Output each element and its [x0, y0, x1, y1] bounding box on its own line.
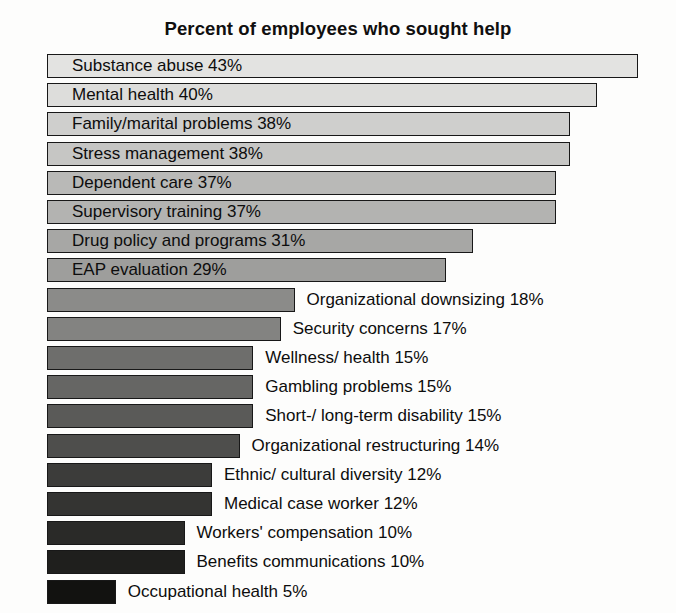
bar-label: Mental health 40% [72, 83, 213, 107]
bar-row: Organizational downsizing 18% [0, 286, 676, 316]
bar-row: Ethnic/ cultural diversity 12% [0, 461, 676, 491]
bar-row: Workers' compensation 10% [0, 519, 676, 549]
bar-label: Security concerns 17% [293, 317, 467, 341]
bar-label: EAP evaluation 29% [72, 258, 227, 282]
bar-rect [47, 550, 185, 574]
bar-label: Drug policy and programs 31% [72, 229, 305, 253]
bar-rect [47, 580, 116, 604]
bar-row: Medical case worker 12% [0, 490, 676, 520]
bar-row: Organizational restructuring 14% [0, 432, 676, 462]
bar-label: Dependent care 37% [72, 171, 232, 195]
bar-row: EAP evaluation 29% [0, 256, 676, 286]
bar-label: Short-/ long-term disability 15% [265, 404, 501, 428]
bar-row: Stress management 38% [0, 140, 676, 170]
plot-area: Substance abuse 43%Mental health 40%Fami… [0, 52, 676, 608]
bar-row: Short-/ long-term disability 15% [0, 402, 676, 432]
bar-row: Benefits communications 10% [0, 548, 676, 578]
bar-row: Family/marital problems 38% [0, 110, 676, 140]
bar-label: Ethnic/ cultural diversity 12% [224, 463, 441, 487]
bar-rect [47, 317, 281, 341]
bar-label: Organizational downsizing 18% [307, 288, 544, 312]
bar-rect [47, 492, 212, 516]
bar-row: Dependent care 37% [0, 169, 676, 199]
bar-rect [47, 463, 212, 487]
bar-rect [47, 404, 253, 428]
bar-row: Wellness/ health 15% [0, 344, 676, 374]
bar-row: Gambling problems 15% [0, 373, 676, 403]
bar-rect [47, 521, 185, 545]
chart-title: Percent of employees who sought help [0, 18, 676, 40]
bar-row: Occupational health 5% [0, 578, 676, 608]
bar-label: Organizational restructuring 14% [252, 434, 500, 458]
bar-label: Supervisory training 37% [72, 200, 261, 224]
bar-row: Supervisory training 37% [0, 198, 676, 228]
bar-row: Drug policy and programs 31% [0, 227, 676, 257]
bar-label: Wellness/ health 15% [265, 346, 428, 370]
bar-rect [47, 346, 253, 370]
bar-rect [47, 434, 240, 458]
bar-label: Gambling problems 15% [265, 375, 451, 399]
bar-chart: Percent of employees who sought help Sub… [0, 0, 676, 613]
bar-label: Medical case worker 12% [224, 492, 418, 516]
bar-row: Substance abuse 43% [0, 52, 676, 82]
bar-rect [47, 375, 253, 399]
bar-label: Occupational health 5% [128, 580, 308, 604]
bar-label: Benefits communications 10% [197, 550, 425, 574]
bar-label: Family/marital problems 38% [72, 112, 291, 136]
bar-row: Security concerns 17% [0, 315, 676, 345]
bar-rect [47, 288, 295, 312]
bar-label: Substance abuse 43% [72, 54, 242, 78]
bar-row: Mental health 40% [0, 81, 676, 111]
bar-label: Workers' compensation 10% [197, 521, 413, 545]
bar-label: Stress management 38% [72, 142, 263, 166]
